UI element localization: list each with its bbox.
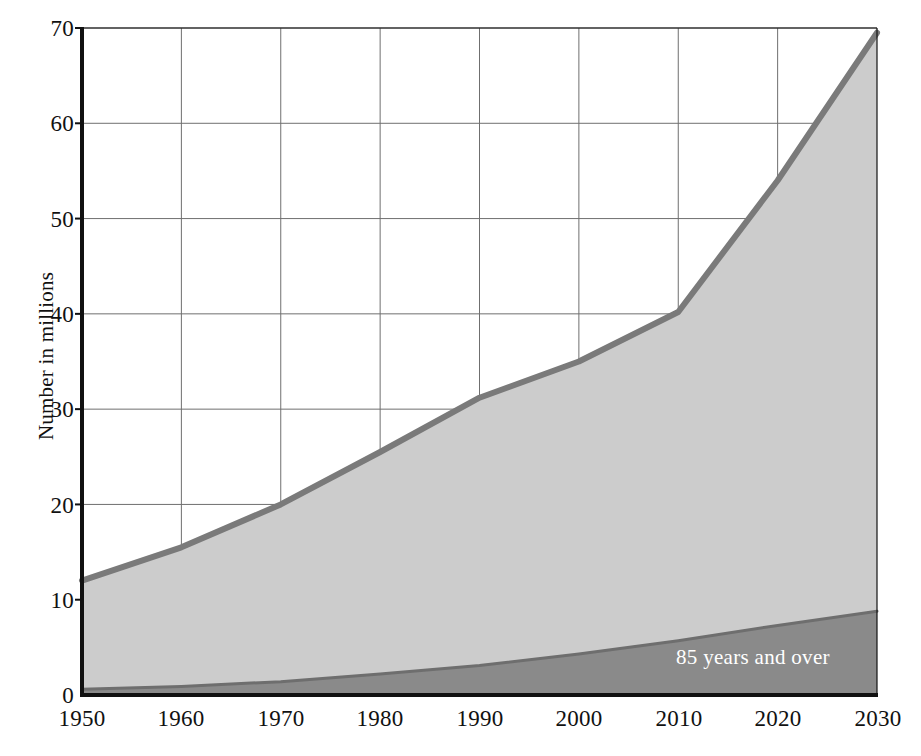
chart-figure: Number in millions 70 60 50 40 30 20 10 …: [0, 0, 921, 756]
series-annotation-85-and-over: 85 years and over: [676, 645, 830, 670]
plot-area: [0, 0, 921, 756]
